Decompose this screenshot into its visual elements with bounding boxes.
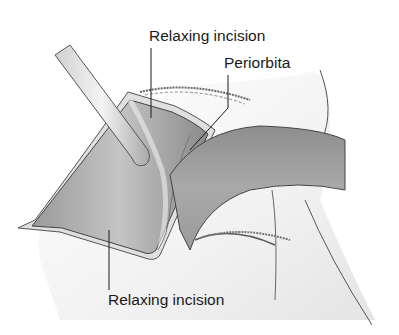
label-relaxing-incision-bottom: Relaxing incision — [108, 292, 224, 308]
surgical-illustration — [0, 0, 399, 335]
label-periorbita: Periorbita — [224, 55, 290, 71]
label-relaxing-incision-top: Relaxing incision — [149, 28, 265, 44]
